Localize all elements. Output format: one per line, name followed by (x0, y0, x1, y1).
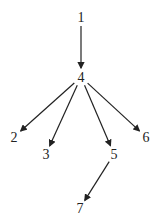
nodes: 1423567 (11, 10, 150, 216)
node-6: 6 (143, 130, 150, 145)
tree-diagram: 1423567 (0, 0, 159, 224)
node-4: 4 (78, 70, 85, 85)
edge-4-5 (85, 85, 111, 145)
node-7: 7 (77, 201, 84, 216)
edges (21, 26, 140, 200)
edge-4-6 (88, 83, 140, 131)
edge-4-2 (21, 83, 75, 131)
edge-5-7 (85, 162, 109, 201)
node-2: 2 (11, 130, 18, 145)
node-3: 3 (43, 147, 50, 162)
node-5: 5 (111, 147, 118, 162)
node-1: 1 (78, 10, 85, 25)
edge-4-3 (50, 85, 78, 146)
